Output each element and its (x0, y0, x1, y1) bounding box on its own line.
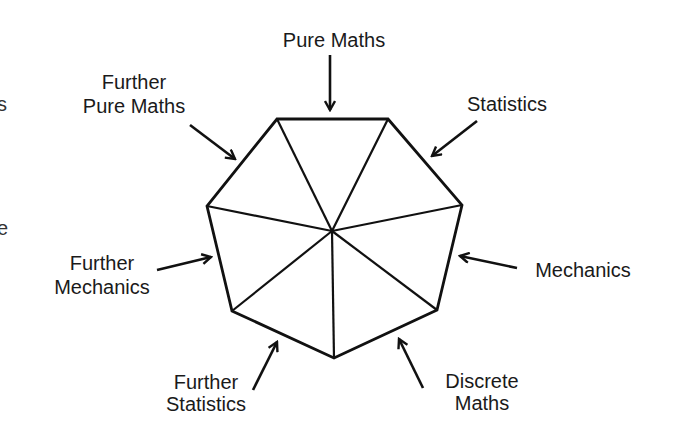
arrow-further-pure-maths-icon (190, 125, 235, 159)
label-further-statistics-line2: Statistics (166, 393, 246, 415)
label-further-pure-maths-line1: Further (102, 71, 167, 93)
label-further-statistics-line1: Further (174, 371, 239, 393)
cropped-text-fragment: e (0, 217, 8, 239)
arrow-discrete-maths-icon (399, 339, 423, 388)
arrow-mechanics-icon (460, 256, 517, 268)
label-further-mechanics-line1: Further (70, 252, 135, 274)
arrow-further-mechanics-icon (157, 257, 211, 270)
spoke-line (332, 231, 437, 310)
label-mechanics: Mechanics (535, 259, 631, 281)
label-pure-maths: Pure Maths (283, 29, 385, 51)
label-discrete-maths-line2: Maths (455, 392, 509, 414)
spoke-line (332, 231, 334, 358)
module-heptagon-diagram: s e Pure Maths Statistics Mechanics Disc… (0, 0, 674, 433)
label-discrete-maths-line1: Discrete (445, 370, 518, 392)
spoke-line (332, 119, 388, 231)
label-statistics: Statistics (467, 93, 547, 115)
heptagon-shape (207, 119, 462, 358)
spoke-line (332, 205, 462, 231)
arrow-further-statistics-icon (253, 342, 277, 390)
spoke-line (232, 231, 332, 311)
spoke-line (207, 206, 332, 231)
label-further-pure-maths-line2: Pure Maths (83, 95, 185, 117)
spoke-line (277, 119, 332, 231)
arrow-statistics-icon (432, 121, 477, 156)
cropped-text-fragment: s (0, 93, 7, 115)
label-further-mechanics-line2: Mechanics (54, 276, 150, 298)
